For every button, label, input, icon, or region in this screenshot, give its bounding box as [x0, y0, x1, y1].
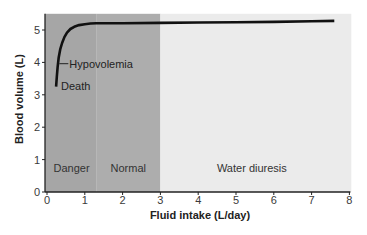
regions-layer [45, 14, 351, 192]
y-tick-label: 4 [34, 56, 40, 68]
x-tick-label: 8 [346, 194, 352, 206]
x-axis-title: Fluid intake (L/day) [150, 209, 251, 221]
x-tick-label: 4 [195, 194, 201, 206]
region-label-water-diuresis: Water diuresis [217, 162, 287, 174]
blood-volume-chart: DangerNormalWater diuresis 012345678 012… [0, 0, 367, 235]
y-ticks-layer: 012345 [34, 24, 45, 198]
x-tick-label: 5 [233, 194, 239, 206]
y-tick-label: 1 [34, 154, 40, 166]
x-tick-label: 3 [157, 194, 163, 206]
y-tick-label: 0 [34, 186, 40, 198]
x-tick-label: 0 [44, 194, 50, 206]
annotation-hypovolemia: Hypovolemia [69, 58, 133, 70]
region-label-danger: Danger [54, 162, 90, 174]
x-ticks-layer: 012345678 [44, 192, 353, 206]
annotation-death: Death [61, 80, 90, 92]
y-tick-label: 5 [34, 24, 40, 36]
x-tick-label: 7 [309, 194, 315, 206]
x-tick-label: 6 [271, 194, 277, 206]
region-label-normal: Normal [111, 162, 146, 174]
y-tick-label: 2 [34, 121, 40, 133]
x-tick-label: 2 [120, 194, 126, 206]
y-tick-label: 3 [34, 89, 40, 101]
x-tick-label: 1 [82, 194, 88, 206]
y-axis-title: Blood volume (L) [13, 54, 25, 144]
